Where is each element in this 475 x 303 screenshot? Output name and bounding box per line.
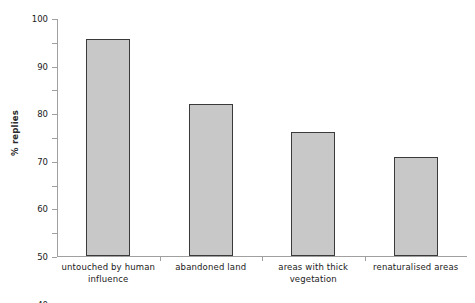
y-tick-label: 80 — [37, 110, 48, 119]
y-tick-mark: 10 — [52, 233, 57, 234]
y-tick-mark: 50 — [52, 138, 57, 139]
y-tick-mark: 0 — [52, 257, 57, 258]
y-tick-label: 90 — [37, 62, 48, 71]
y-tick-mark: 80 — [52, 67, 57, 68]
x-axis-category-label-line: vegetation — [262, 274, 365, 286]
y-tick-mark: 100 — [52, 19, 57, 20]
bar — [291, 132, 335, 256]
y-tick-label: 50 — [37, 253, 48, 262]
x-tick-mark — [262, 257, 263, 261]
bar-chart: % replies 1009080706050403020100 untouch… — [0, 0, 475, 303]
y-axis-line — [57, 19, 58, 257]
bar — [86, 39, 130, 256]
y-tick-mark: 60 — [52, 114, 57, 115]
y-axis-title-text: % replies — [10, 110, 20, 156]
y-axis-title: % replies — [4, 0, 26, 265]
x-tick-mark — [365, 257, 366, 261]
y-tick-mark: 30 — [52, 186, 57, 187]
y-tick-mark: 20 — [52, 209, 57, 210]
x-axis-category-label-line: influence — [57, 274, 160, 286]
x-axis-category-label-line: abandoned land — [160, 262, 263, 274]
x-tick-mark — [160, 257, 161, 261]
x-axis-category-label-line: untouched by human — [57, 262, 160, 274]
y-tick-label: 60 — [37, 205, 48, 214]
y-tick-mark: 40 — [52, 162, 57, 163]
y-tick-label: 100 — [32, 15, 48, 24]
x-axis-category-label-line: renaturalised areas — [365, 262, 468, 274]
x-axis-category-label: renaturalised areas — [365, 262, 468, 274]
x-axis-category-label: areas with thickvegetation — [262, 262, 365, 285]
plot-area: 1009080706050403020100 — [57, 19, 467, 257]
x-axis-labels: untouched by humaninfluenceabandoned lan… — [57, 262, 467, 302]
bar — [189, 104, 233, 256]
x-axis-category-label: untouched by humaninfluence — [57, 262, 160, 285]
y-tick-mark: 70 — [52, 90, 57, 91]
bar — [394, 157, 438, 256]
x-axis-category-label: abandoned land — [160, 262, 263, 274]
y-tick-mark: 90 — [52, 43, 57, 44]
x-axis-category-label-line: areas with thick — [262, 262, 365, 274]
y-tick-label: 70 — [37, 158, 48, 167]
